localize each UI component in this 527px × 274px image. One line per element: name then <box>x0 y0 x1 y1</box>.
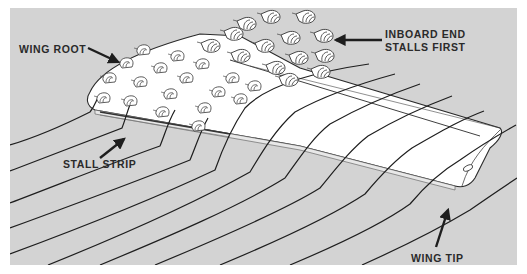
wing-tip-label: WING TIP <box>411 252 464 265</box>
inboard-stalls-first-label: INBOARD END STALLS FIRST <box>385 28 466 54</box>
stall-strip-arrow-icon <box>100 139 124 158</box>
wing-root-label: WING ROOT <box>19 43 86 56</box>
wing-stall-diagram: WING ROOT INBOARD END STALLS FIRST STALL… <box>0 0 527 274</box>
stall-strip-label: STALL STRIP <box>63 158 136 171</box>
wing-root-arrow-icon <box>88 48 118 62</box>
